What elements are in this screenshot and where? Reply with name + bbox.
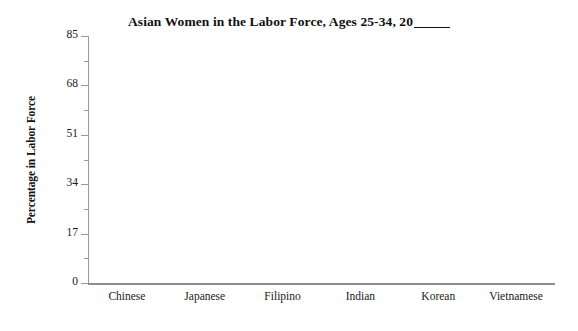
y-axis-tick-label: 34	[52, 176, 78, 188]
y-axis-line	[88, 36, 89, 284]
chart-title: Asian Women in the Labor Force, Ages 25-…	[0, 14, 578, 30]
y-axis-tick-major	[81, 234, 88, 235]
x-axis-category-label: Japanese	[184, 290, 225, 302]
y-axis-tick-major	[81, 85, 88, 86]
y-axis-tick-minor	[84, 209, 88, 210]
x-axis-category-label: Indian	[346, 290, 375, 302]
y-axis-tick-major	[81, 36, 88, 37]
y-axis-tick-minor	[84, 160, 88, 161]
chart-title-blank	[414, 27, 450, 28]
y-axis-tick-minor	[84, 258, 88, 259]
y-axis-tick-label: 17	[52, 226, 78, 238]
x-axis-category-label: Chinese	[108, 290, 145, 302]
y-axis-tick-minor	[84, 61, 88, 62]
plot-area	[88, 36, 555, 283]
y-axis-tick-major	[81, 135, 88, 136]
y-axis-title-text: Percentage in Labor Force	[25, 95, 37, 223]
y-axis-tick-minor	[84, 110, 88, 111]
x-axis-category-label: Korean	[421, 290, 455, 302]
y-axis-title: Percentage in Labor Force	[20, 36, 42, 283]
y-axis-tick-major	[81, 283, 88, 284]
y-axis-tick-label: 51	[52, 127, 78, 139]
y-axis-tick-label: 85	[52, 28, 78, 40]
y-axis-tick-major	[81, 184, 88, 185]
chart-title-text: Asian Women in the Labor Force, Ages 25-…	[128, 14, 413, 29]
x-axis-category-label: Vietnamese	[489, 290, 543, 302]
x-axis-line	[88, 283, 555, 285]
y-axis-tick-label: 68	[52, 77, 78, 89]
y-axis-tick-label: 0	[52, 275, 78, 287]
x-axis-category-label: Filipino	[264, 290, 300, 302]
